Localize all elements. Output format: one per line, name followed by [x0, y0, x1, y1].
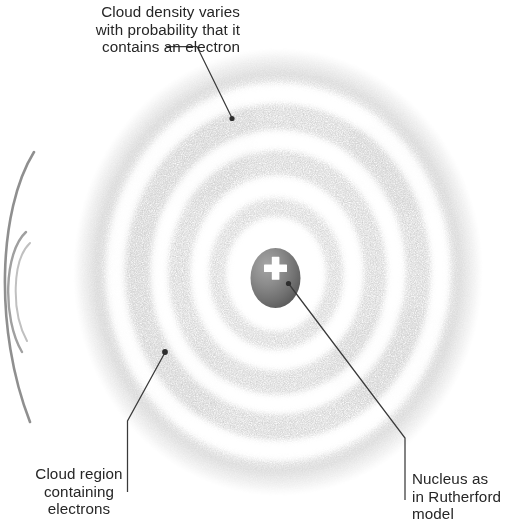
label-cloud-region: Cloud region containing electrons: [18, 465, 140, 518]
label-nucleus: Nucleus as in Rutherford model: [412, 470, 508, 523]
nucleus: [251, 248, 301, 308]
adjacent-orbit-arcs: [5, 152, 34, 422]
label-cloud-density: Cloud density varies with probability th…: [0, 3, 240, 56]
